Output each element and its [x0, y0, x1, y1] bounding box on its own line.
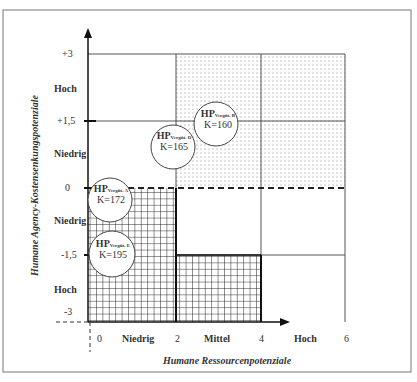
point-b: HPVergüt. BK=160	[198, 108, 238, 130]
y-tick: +3	[62, 48, 73, 59]
x-tick: 4	[259, 333, 264, 344]
y-tick: -3	[64, 306, 72, 317]
x-tick: 6	[344, 333, 349, 344]
y-axis-arrow-icon	[84, 28, 92, 38]
grid-region-b	[176, 255, 261, 322]
y-tick: 0	[65, 182, 70, 193]
x-category: Mittel	[204, 333, 230, 344]
y-axis-title: Humane Agency-Kostensenkungspotenziale	[29, 86, 40, 286]
y-tick: +1,5	[57, 115, 75, 126]
x-tick: 0	[97, 333, 102, 344]
point-d: HPVergüt. DK=165	[154, 130, 194, 152]
x-tick: 2	[175, 333, 180, 344]
point-a: HPVergüt. AK=172	[91, 183, 131, 205]
y-tick: -1,5	[61, 249, 77, 260]
y-category: Niedrig	[54, 215, 86, 226]
x-axis-arrow-icon	[280, 318, 290, 326]
y-category: Hoch	[54, 83, 77, 94]
x-category: Hoch	[294, 333, 317, 344]
x-axis-title: Humane Ressourcenpotenziale	[163, 355, 291, 366]
y-category: Hoch	[54, 284, 77, 295]
point-e: HPVergüt. EK=195	[93, 238, 133, 260]
y-category: Niedrig	[54, 148, 86, 159]
x-category: Niedrig	[122, 333, 154, 344]
